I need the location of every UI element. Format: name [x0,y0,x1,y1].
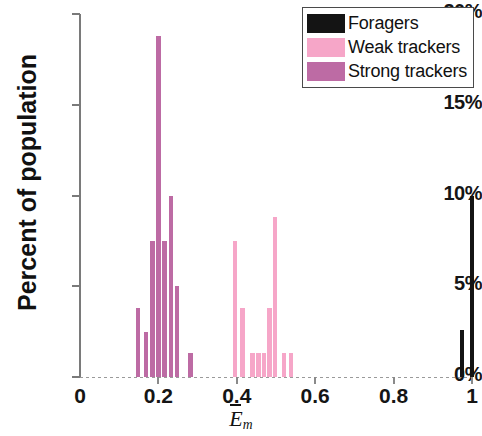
histogram-bar-weak [233,241,238,377]
y-tick-mark [72,376,80,378]
legend-item-weak[interactable]: Weak trackers [307,35,469,59]
y-tick-mark [72,104,80,106]
x-axis-title-symbol: E [229,406,242,432]
legend-swatch-forager-icon [307,14,345,33]
histogram-bar-weak [256,353,261,377]
x-tick-mark [314,377,316,384]
histogram-bar-strong [136,308,141,377]
legend-label: Weak trackers [348,37,460,58]
histogram-bar-weak [262,353,267,377]
legend-item-forager[interactable]: Foragers [307,11,469,35]
histogram-bar-weak [289,353,294,377]
histogram-bar-weak [240,308,245,377]
histogram-bar-strong [156,36,161,377]
y-tick-mark [72,13,80,15]
histogram-bar-strong [169,196,174,378]
x-tick-label: 0.2 [144,384,173,408]
histogram-bar-strong [188,353,193,377]
legend-label: Foragers [348,13,418,34]
legend-item-strong[interactable]: Strong trackers [307,59,469,83]
x-tick-mark [471,377,473,384]
x-axis-title-subscript: m [243,417,253,432]
x-tick-label: 0.6 [301,384,330,408]
y-tick-mark [72,285,80,287]
histogram-bar-strong [175,286,180,377]
histogram-bar-weak [267,308,272,377]
legend-label: Strong trackers [348,61,467,82]
x-axis-title: Em [0,406,482,433]
y-axis-title: Percent of population [13,0,42,373]
histogram-bar-weak [250,353,255,377]
histogram-bar-weak [273,217,278,377]
histogram-bar-strong [162,241,167,377]
histogram-bar-forager [460,330,465,377]
x-tick-label: 0 [74,384,86,408]
histogram-bar-weak [282,353,287,377]
histogram-bar-forager [470,196,475,378]
x-tick-label: 1 [466,384,478,408]
legend-swatch-weak-icon [307,38,345,57]
x-tick-label: 0.8 [379,384,408,408]
histogram-bar-strong [144,332,149,377]
x-tick-mark [157,377,159,384]
x-tick-mark [236,377,238,384]
chart-legend: ForagersWeak trackersStrong trackers [302,7,474,88]
legend-swatch-strong-icon [307,62,345,81]
histogram-bar-strong [150,241,155,377]
histogram-chart: Percent of population 0%5%10%15%20% 00.2… [0,0,482,436]
y-tick-mark [72,195,80,197]
x-tick-mark [393,377,395,384]
